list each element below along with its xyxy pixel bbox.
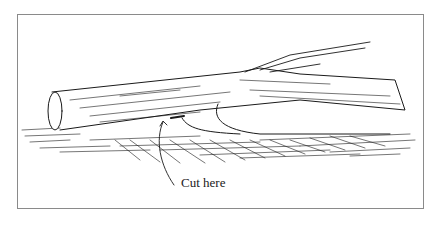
log-body: [48, 68, 405, 130]
ground-hatching: [22, 128, 415, 163]
cut-here-label: Cut here: [181, 175, 225, 191]
upper-branch: [245, 42, 370, 72]
callout-arrow: [159, 122, 174, 185]
